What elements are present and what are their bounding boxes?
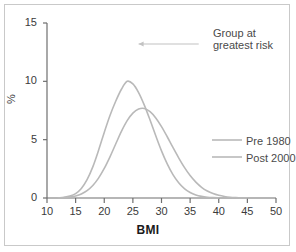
y-tick-label: 10 (15, 75, 37, 86)
x-tick-label: 35 (178, 206, 202, 217)
annotation-line-2: greatest risk (213, 39, 273, 51)
annotation-line-1: Group at (213, 27, 273, 39)
annotation-arrow-head (139, 41, 144, 46)
x-tick-label: 30 (150, 206, 174, 217)
y-tick-label: 15 (15, 17, 37, 28)
annotation-label: Group at greatest risk (213, 27, 273, 51)
x-axis-label: BMI (0, 223, 296, 237)
legend-swatches (212, 140, 242, 157)
annotation-arrow (139, 41, 199, 46)
chart-page: 051015 101520253035404550 % BMI Group at… (0, 0, 296, 252)
y-tick-label: 5 (15, 134, 37, 145)
y-tick-label: 0 (15, 192, 37, 203)
y-axis-label: % (5, 94, 17, 104)
x-tick-label: 25 (121, 206, 145, 217)
x-tick-label: 15 (64, 206, 88, 217)
x-tick-label: 40 (207, 206, 231, 217)
x-tick-label: 45 (235, 206, 259, 217)
plot-area: 051015 101520253035404550 % BMI Group at… (0, 0, 296, 252)
legend-item-post-2000: Post 2000 (246, 152, 296, 164)
curve-post-2000 (64, 108, 247, 198)
x-tick-label: 50 (264, 206, 288, 217)
x-tick-label: 10 (35, 206, 59, 217)
x-tick-label: 20 (92, 206, 116, 217)
x-axis-ticks (47, 198, 276, 203)
legend-item-pre-1980: Pre 1980 (246, 135, 291, 147)
